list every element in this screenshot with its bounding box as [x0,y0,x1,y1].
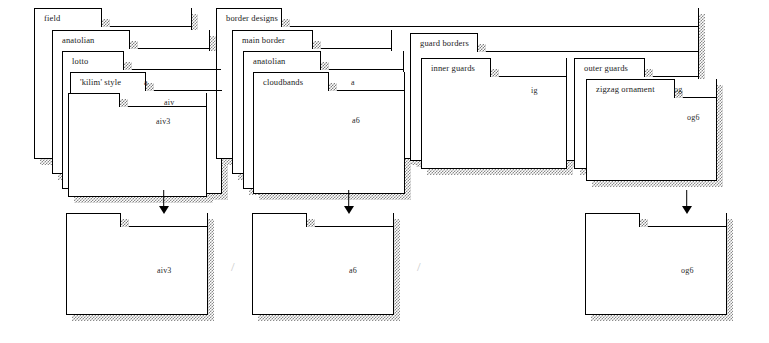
folder-notch-icon [478,44,486,52]
folder-tab-label: guard borders [411,39,479,48]
folder-tab[interactable]: zigzag ornament [586,79,675,98]
folder-tab[interactable]: cloudbands [253,72,329,91]
folder-top-rule [653,76,699,77]
arrow-head [344,206,354,214]
folder-notch-icon [282,19,290,27]
folder-tab[interactable]: border designs [216,8,282,27]
folder-top-rule [290,26,699,27]
folder-tab-label: anatolian [53,36,105,45]
folder-tab[interactable]: 'kilim' style [70,72,146,91]
folder-top-rule [337,90,405,91]
folder-tab-label: 'kilim' style [71,78,131,87]
folder-cloudbands[interactable]: cloudbands a6 [253,72,411,200]
folder-inner-guards[interactable]: inner guards ig [421,58,573,175]
folder-tab[interactable]: anatolian [243,51,321,70]
folder-tab-label: lotto [63,57,98,66]
folder-tab-label: cloudbands [254,78,313,87]
folder-result-aiv3[interactable]: aiv3 [66,213,214,321]
folder-top-rule [138,48,210,49]
arrow-head [159,206,169,214]
folder-tab[interactable]: main border [232,30,313,49]
folder-notch-icon [329,83,337,91]
folder-notch-icon [313,41,321,49]
folder-tab-label: outer guards [575,64,638,73]
folder-top-rule [129,226,208,227]
folder-body [252,213,394,315]
folder-notch-icon [640,219,648,227]
arrow-stem [163,190,164,207]
folder-code-label: a [144,78,148,87]
folder-top-rule [321,48,392,49]
folder-notch-icon [124,62,132,70]
folder-code-label: ig [531,86,538,95]
folder-body [585,213,727,315]
folder-tab[interactable]: guard borders [410,33,478,52]
folder-code-label: a6 [349,266,357,275]
folder-notch-icon [102,19,110,27]
folder-code-label: og6 [687,113,700,122]
folder-top-rule [329,69,404,70]
separator-slash: / [417,259,421,275]
down-arrow-icon [343,190,355,214]
folder-result-a6[interactable]: a6 [252,213,400,321]
folder-code-label: og [674,85,682,94]
folder-top-rule [683,97,717,98]
separator-slash: / [231,259,235,275]
folder-notch-icon [645,69,653,77]
folder-body [68,93,207,197]
folder-notch-icon [130,41,138,49]
folder-top-rule [499,76,567,77]
arrow-head [682,206,692,214]
folder-code-label: aiv3 [157,266,172,275]
folder-field-leading[interactable]: aiv3 [68,93,213,203]
folder-notch-icon [121,219,129,227]
folder-top-rule [315,226,394,227]
folder-tab[interactable]: anatolian [52,30,130,49]
folder-tab-label: main border [233,36,295,45]
folder-tab[interactable]: inner guards [421,58,491,77]
folder-notch-icon [321,62,329,70]
folder-tab[interactable]: outer guards [574,58,645,77]
folder-tab[interactable] [66,213,121,227]
folder-tab[interactable] [252,213,307,227]
folder-top-rule [486,51,699,52]
folder-code-label: aiv3 [156,117,171,126]
folder-code-label: a [351,78,355,87]
folder-notch-icon [307,219,315,227]
folder-notch-icon [491,69,499,77]
down-arrow-icon [681,190,693,214]
folder-code-label: aiv [164,98,174,107]
folder-code-label: a6 [352,116,360,125]
folder-tab[interactable]: lotto [62,51,124,70]
folder-top-rule [154,90,222,91]
down-arrow-icon [158,190,170,214]
folder-tab-label: anatolian [244,57,296,66]
folder-body [66,213,208,315]
folder-tab-label: border designs [217,14,288,23]
folder-tab[interactable] [68,93,120,107]
folder-tab[interactable] [585,213,640,227]
folder-top-rule [132,69,221,70]
folder-tab-label: zigzag ornament [587,85,665,94]
folder-tab[interactable]: field [34,8,102,27]
arrow-stem [348,190,349,207]
folder-result-og6[interactable]: og6 [585,213,733,321]
arrow-stem [686,190,687,207]
folder-top-rule [648,226,727,227]
folder-code-label: og6 [681,266,694,275]
diagram-canvas: field anatolian lotto a 'kilim' style a [0,0,769,343]
folder-tab-label: field [35,14,70,23]
folder-zigzag-ornament[interactable]: zigzag ornament og6 [586,79,723,187]
folder-notch-icon [120,99,128,107]
folder-tab-label: inner guards [422,64,485,73]
folder-top-rule [110,26,192,27]
